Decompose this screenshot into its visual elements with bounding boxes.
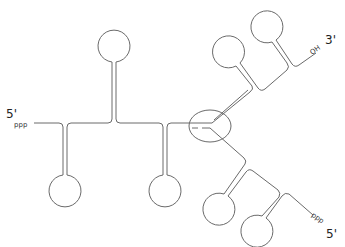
hairpin-loop-2 bbox=[98, 30, 130, 62]
hairpin-loop-6 bbox=[203, 193, 235, 225]
junction-ellipse bbox=[189, 110, 231, 142]
bottom-five-prime-tail bbox=[266, 193, 313, 218]
rna-structure-diagram: 5' ppp 3' OH ppp 5' bbox=[0, 0, 345, 247]
label-bottom-5prime: 5' bbox=[326, 227, 337, 241]
hairpin-loop-5 bbox=[251, 11, 283, 43]
label-top-oh: OH bbox=[309, 44, 322, 57]
left-backbone bbox=[34, 62, 188, 175]
hairpin-loop-7 bbox=[241, 215, 273, 247]
hairpin-loop-1 bbox=[49, 175, 81, 207]
hairpin-loop-3 bbox=[149, 175, 181, 207]
label-left-ppp: ppp bbox=[14, 121, 28, 129]
label-top-3prime: 3' bbox=[325, 33, 336, 47]
hairpin-loop-4 bbox=[213, 36, 245, 68]
label-bottom-ppp: ppp bbox=[310, 211, 326, 226]
label-left-5prime: 5' bbox=[6, 107, 17, 121]
